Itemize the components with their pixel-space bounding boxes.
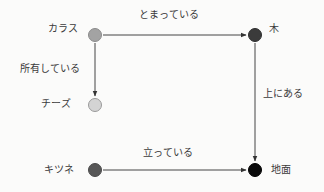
edge-label-tree-ground: 上にある <box>263 88 303 100</box>
node-label-ground: 地面 <box>271 164 291 176</box>
edge-label-fox-ground: 立っている <box>143 147 193 159</box>
node-cheese <box>88 98 102 112</box>
node-tree <box>248 28 262 42</box>
node-ground <box>248 163 262 177</box>
node-label-tree: 木 <box>269 23 279 35</box>
node-label-crow: カラス <box>48 23 78 35</box>
edge-label-crow-cheese: 所有している <box>20 63 80 75</box>
node-label-fox: キツネ <box>44 164 74 176</box>
node-fox <box>88 163 102 177</box>
node-label-cheese: チーズ <box>41 98 71 110</box>
node-crow <box>88 28 102 42</box>
edge-label-crow-tree: とまっている <box>139 9 199 21</box>
